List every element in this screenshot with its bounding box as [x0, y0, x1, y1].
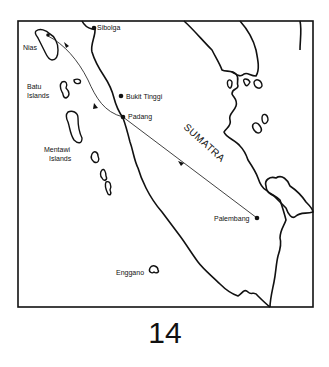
route-nias-padang: [48, 36, 123, 117]
label-sumatra: SUMATRA: [182, 121, 228, 164]
map-frame: [18, 21, 313, 307]
label-mentawi-line2: Islands: [49, 155, 72, 162]
batu-island-2: [74, 79, 81, 83]
city-dot-palembang: [255, 216, 260, 221]
route-arrow-3: [178, 161, 184, 166]
island-east-1: [227, 80, 232, 88]
island-east-4: [253, 123, 262, 133]
page-number: 14: [148, 316, 181, 349]
city-dot-sibolga: [92, 26, 97, 31]
island-east-5: [262, 114, 268, 123]
label-nias: Nias: [23, 44, 38, 51]
mentawi-island-3: [101, 169, 107, 180]
label-bukit-tinggi: Bukit Tinggi: [126, 93, 163, 101]
mentawi-island-4: [105, 182, 111, 195]
city-dot-padang: [121, 115, 126, 120]
label-enggano: Enggano: [116, 269, 144, 277]
label-mentawi-line1: Mentawi: [44, 146, 71, 153]
enggano-island: [149, 266, 158, 273]
route-arrow-1: [64, 42, 69, 48]
route-arrow-2: [93, 103, 98, 109]
peninsula-east: [300, 21, 301, 50]
mentawi-island-2: [91, 152, 99, 163]
siberut-island: [67, 111, 83, 143]
city-dot-bukit-tinggi: [119, 94, 124, 99]
label-batu-line2: Islands: [27, 92, 50, 99]
batu-island-1: [61, 81, 70, 98]
malay-peninsula: [232, 21, 258, 76]
label-sibolga: Sibolga: [97, 24, 120, 32]
bangka-island: [266, 177, 313, 218]
island-east-2: [244, 79, 250, 86]
label-batu-line1: Batu: [27, 83, 42, 90]
label-palembang: Palembang: [214, 215, 250, 223]
island-east-3: [254, 80, 262, 88]
start-dot-nias: [46, 33, 50, 37]
sumatra-map: Sibolga Bukit Tinggi Padang Palembang Ni…: [0, 0, 329, 367]
sumatra-west-coast: [82, 21, 270, 307]
label-padang: Padang: [128, 113, 152, 121]
